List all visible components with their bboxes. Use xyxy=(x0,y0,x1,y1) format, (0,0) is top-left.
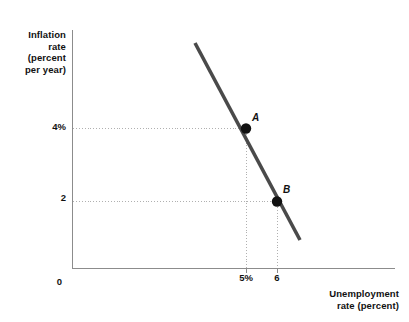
x-axis-title: Unemployment rate (percent) xyxy=(275,288,399,311)
y-tick-label-4: 4% xyxy=(30,121,66,132)
y-tick-label-2: 2 xyxy=(30,192,66,203)
data-point-a-label: A xyxy=(252,112,259,123)
data-point-b-marker xyxy=(272,196,282,206)
phillips-curve-figure: Inflation rate (percent per year) Unempl… xyxy=(0,0,409,322)
x-tick-label-5: 5% xyxy=(230,272,262,283)
data-point-a-marker xyxy=(241,123,251,133)
data-point-b-label: B xyxy=(283,184,290,195)
x-tick-label-6: 6 xyxy=(263,272,291,283)
origin-tick-label: 0 xyxy=(40,276,62,287)
y-axis-title: Inflation rate (percent per year) xyxy=(0,29,66,75)
